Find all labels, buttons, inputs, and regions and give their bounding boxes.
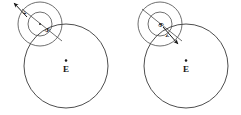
earth-label-left: E bbox=[63, 64, 69, 74]
earth-label-right: E bbox=[183, 64, 189, 74]
earth-center-dot-left bbox=[65, 59, 68, 62]
orbital-transfer-figure: E S v E bbox=[0, 0, 241, 115]
figure-canvas: E S v E bbox=[0, 0, 241, 115]
panel-right: E S v bbox=[138, 2, 228, 108]
panel-left: E S v bbox=[14, 2, 108, 108]
earth-center-dot-right bbox=[185, 59, 188, 62]
